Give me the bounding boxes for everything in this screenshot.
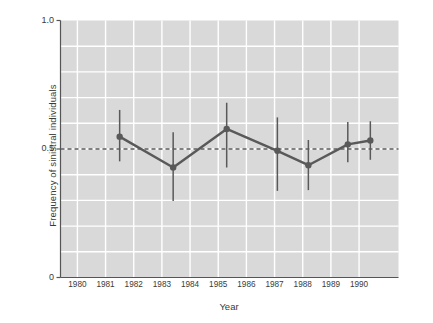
- chart-canvas: [0, 0, 433, 323]
- chart-figure: Frequency of sinistral individuals Year …: [0, 0, 433, 323]
- data-point-marker: [345, 141, 351, 147]
- y-tick-label: 1.0: [24, 15, 54, 25]
- data-point-marker: [274, 148, 280, 154]
- data-point-marker: [223, 126, 229, 132]
- data-point-marker: [305, 162, 311, 168]
- y-axis-label: Frequency of sinistral individuals: [47, 41, 58, 271]
- y-tick-label: 0: [24, 272, 54, 282]
- x-tick-label: 1990: [339, 280, 379, 289]
- x-axis-label: Year: [60, 301, 398, 312]
- y-tick-label: 0.5: [24, 143, 54, 153]
- data-point-marker: [116, 133, 122, 139]
- data-point-marker: [170, 164, 176, 170]
- data-point-marker: [367, 137, 373, 143]
